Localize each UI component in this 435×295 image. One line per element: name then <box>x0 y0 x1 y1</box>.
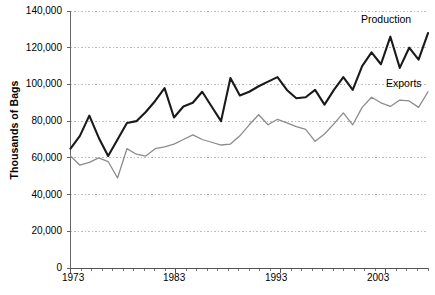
x-tick-label-2003: 2003 <box>367 272 389 283</box>
x-tick-label-1973: 1973 <box>62 272 84 283</box>
series-label-production: Production <box>361 13 411 25</box>
data-series <box>71 33 429 178</box>
gridlines <box>71 11 429 231</box>
coffee-production-exports-chart: Thousands of Bags 140,000 120,000 100,00… <box>0 0 435 295</box>
x-tick-label-1993: 1993 <box>265 272 287 283</box>
x-tick-label-1983: 1983 <box>163 272 185 283</box>
axis-lines <box>67 11 428 268</box>
series-label-exports: Exports <box>386 77 422 89</box>
plot-area <box>0 0 435 295</box>
